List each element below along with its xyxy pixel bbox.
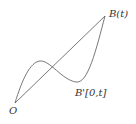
origin-label: O [9,106,17,116]
path-label: B'[0,t] [75,88,106,98]
endpoint-label: B(t) [109,9,128,19]
